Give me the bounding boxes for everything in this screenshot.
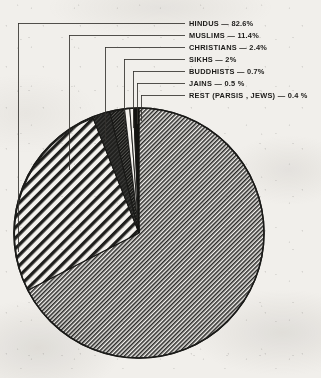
legend-label-sikhs: SIKHS [189,55,213,64]
legend-label-buddhists: BUDDHISTS [189,67,235,76]
legend-value-hindus: 82.6% [231,19,253,28]
legend-item-jains[interactable]: JAINS — 0.5 % [189,79,244,88]
legend-separator: — [221,19,229,28]
chart-page: HINDUS — 82.6% MUSLIMS — 11.4% CHRISTIAN… [0,0,321,378]
leader-line-christians [105,47,185,140]
legend-item-sikhs[interactable]: SIKHS — 2% [189,55,236,64]
leader-lines [0,0,321,378]
legend-label-muslims: MUSLIMS [189,31,225,40]
legend-item-muslims[interactable]: MUSLIMS — 11.4% [189,31,259,40]
legend-item-hindus[interactable]: HINDUS — 82.6% [189,19,253,28]
legend-separator: — [215,55,223,64]
legend-item-christians[interactable]: CHRISTIANS — 2.4% [189,43,267,52]
legend-value-christians: 2.4% [249,43,267,52]
leader-line-hindus [18,23,185,252]
legend-item-rest[interactable]: REST (PARSIS , JEWS) — 0.4 % [189,91,308,100]
legend-item-buddhists[interactable]: BUDDHISTS — 0.7% [189,67,265,76]
legend-label-rest: REST (PARSIS , JEWS) [189,91,275,100]
legend-separator: — [237,67,245,76]
legend-separator: — [239,43,247,52]
legend-label-hindus: HINDUS [189,19,219,28]
legend-separator: — [215,79,223,88]
legend-label-jains: JAINS [189,79,212,88]
legend-value-jains: 0.5 % [225,79,245,88]
legend-value-buddhists: 0.7% [247,67,265,76]
legend-value-rest: 0.4 % [288,91,308,100]
leader-line-jains [137,83,185,124]
legend-value-muslims: 11.4% [237,31,259,40]
leader-line-muslims [69,35,185,170]
legend-label-christians: CHRISTIANS [189,43,237,52]
legend-separator: — [278,91,286,100]
legend-value-sikhs: 2% [225,55,236,64]
leader-line-rest [141,95,185,121]
legend-separator: — [227,31,235,40]
